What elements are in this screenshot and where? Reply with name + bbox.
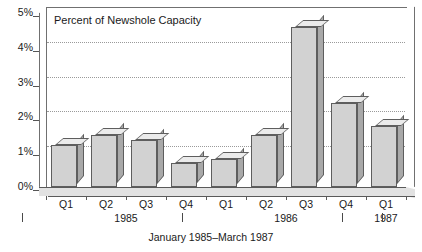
bars-group: [46, 7, 406, 187]
y-axis-tick-label: 4%: [5, 42, 33, 53]
y-axis-tick-mark: [33, 51, 39, 52]
x-axis-tick-label: Q1: [206, 198, 246, 210]
x-axis-tick-mark: [166, 196, 167, 200]
bar: [211, 159, 237, 187]
x-axis-tick-label: Q1: [46, 198, 86, 210]
year-group-separator: [22, 213, 23, 222]
bar-front-face: [371, 126, 397, 187]
x-axis-tick-mark: [286, 196, 287, 200]
bar-chart: 0%1%2%3%4%5% Percent of Newshole Capacit…: [0, 0, 422, 252]
x-axis-tick-mark: [406, 196, 407, 200]
bar: [51, 145, 77, 187]
y-axis-tick-mark: [33, 120, 39, 121]
y-axis-tick-label: 3%: [5, 77, 33, 88]
bar: [91, 135, 117, 187]
x-axis-tick-label: Q2: [246, 198, 286, 210]
x-axis-tick-label: Q2: [86, 198, 126, 210]
year-group-separator: [182, 213, 183, 222]
y-axis-tick-label: 5%: [5, 7, 33, 18]
year-group-label: 1986: [261, 212, 311, 224]
chart-floor: [39, 187, 406, 196]
bar-front-face: [331, 103, 357, 187]
bar: [331, 103, 357, 187]
x-axis-tick-mark: [246, 196, 247, 200]
y-axis: 0%1%2%3%4%5%: [0, 0, 33, 200]
y-axis-tick-label: 1%: [5, 146, 33, 157]
bar-front-face: [251, 135, 277, 187]
bar: [371, 126, 397, 187]
bar-front-face: [171, 163, 197, 187]
year-group-label: 1987: [361, 212, 411, 224]
bar-front-face: [211, 159, 237, 187]
year-group-separator: [382, 213, 383, 222]
x-axis-tick-mark: [86, 196, 87, 200]
bar: [131, 140, 157, 187]
x-axis-tick-label: Q3: [126, 198, 166, 210]
y-axis-tick-mark: [33, 16, 39, 17]
year-group-labels: 198519861987: [46, 212, 414, 226]
bar-side-face: [357, 92, 364, 184]
bar-side-face: [317, 15, 324, 183]
x-axis-tick-mark: [326, 196, 327, 200]
bar: [251, 135, 277, 187]
bar-front-face: [91, 135, 117, 187]
y-axis-tick-mark: [33, 86, 39, 87]
x-axis-labels: Q1Q2Q3Q4Q1Q2Q3Q4Q1: [46, 198, 414, 212]
year-group-separator: [342, 213, 343, 222]
y-axis-tick-label: 0%: [5, 181, 33, 192]
bar-front-face: [291, 27, 317, 187]
y-axis-tick-mark: [33, 190, 39, 191]
x-axis-tick-mark: [366, 196, 367, 200]
plot-right-wall: [405, 5, 415, 187]
chart-caption: January 1985–March 1987: [0, 231, 422, 244]
x-axis-tick-mark: [46, 196, 47, 200]
x-axis-line: [39, 187, 406, 188]
bar-front-face: [131, 140, 157, 187]
y-axis-tick-label: 2%: [5, 111, 33, 122]
x-axis-tick-mark: [126, 196, 127, 200]
x-axis-back-line: [48, 196, 415, 197]
x-axis-tick-label: Q4: [326, 198, 366, 210]
year-group-label: 1985: [101, 212, 151, 224]
bar: [171, 163, 197, 187]
bar: [291, 27, 317, 187]
x-axis-tick-label: Q1: [366, 198, 406, 210]
x-axis-tick-mark: [206, 196, 207, 200]
x-axis-tick-label: Q4: [166, 198, 206, 210]
x-axis-tick-label: Q3: [286, 198, 326, 210]
bar-front-face: [51, 145, 77, 187]
y-axis-tick-mark: [33, 155, 39, 156]
